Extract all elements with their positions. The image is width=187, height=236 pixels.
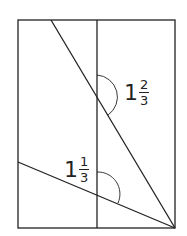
upper-angle-denominator: 3 bbox=[140, 93, 148, 107]
steep-diagonal bbox=[51, 20, 175, 228]
upper-angle-arc bbox=[97, 75, 117, 115]
lower-angle-arc bbox=[97, 172, 120, 203]
upper-angle-fraction: 2 3 bbox=[139, 78, 149, 107]
lower-angle-fraction: 1 3 bbox=[79, 155, 89, 184]
lower-angle-label: 1 1 3 bbox=[64, 155, 89, 184]
lower-angle-denominator: 3 bbox=[80, 170, 88, 184]
upper-angle-whole: 1 bbox=[124, 82, 138, 104]
diagram-canvas bbox=[0, 0, 187, 236]
lower-angle-numerator: 1 bbox=[79, 155, 89, 170]
lower-angle-whole: 1 bbox=[64, 159, 78, 181]
upper-angle-label: 1 2 3 bbox=[124, 78, 149, 107]
upper-angle-numerator: 2 bbox=[139, 78, 149, 93]
